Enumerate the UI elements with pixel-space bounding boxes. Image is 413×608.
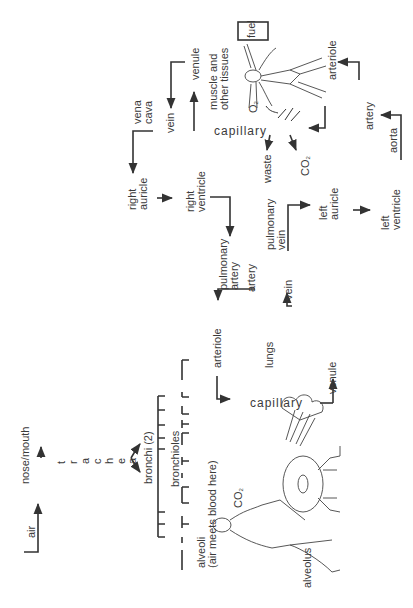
label-artery-lungs: artery [246, 264, 257, 292]
label-co2-lungs: CO2 [233, 488, 247, 508]
label-vein-body: vein [165, 113, 176, 133]
circulation-diagram: air nose/mouth t r a c h e a bronchi (2)… [0, 0, 413, 608]
label-fuel: fuel [246, 20, 257, 38]
label-nose-mouth: nose/mouth [20, 427, 31, 484]
label-pulmonary-artery: pulmonary artery [218, 239, 240, 290]
label-alveolus: alveolus [302, 548, 313, 588]
label-pulmonary-vein: pulmonary vein [265, 199, 287, 250]
label-co2-body: CO2 [300, 156, 314, 176]
label-waste: waste [262, 154, 273, 183]
label-right-ventricle: right ventricle [185, 171, 207, 212]
label-arteriole-body: arteriole [327, 40, 338, 80]
seated-figure-illustration [213, 395, 340, 572]
label-artery-body: artery [364, 102, 375, 130]
label-venule-lungs: venule [327, 362, 338, 394]
label-bronchioles: bronchioles [170, 431, 181, 487]
label-capillary-lungs: capillary [250, 398, 303, 409]
label-vena-cava: vena cava [132, 100, 154, 124]
label-bronchi: bronchi (2) [143, 431, 154, 484]
standing-figure-illustration [244, 44, 326, 108]
label-capillary-body: capillary [214, 126, 267, 137]
label-alveoli: alveoli (air meets blood here) [196, 460, 218, 568]
label-muscle-tissues: muscle and other tissues [208, 48, 230, 110]
label-air: air [26, 526, 37, 538]
label-left-ventricle: left ventricle [380, 189, 402, 230]
label-lungs: lungs [264, 342, 275, 368]
label-venule-body: venule [190, 48, 201, 80]
label-right-auricle: right auricle [127, 178, 149, 210]
label-vein-lungs: vein [283, 280, 294, 300]
label-o2: O2 [248, 101, 262, 113]
label-aorta: aorta [388, 128, 399, 153]
label-left-auricle: left auricle [318, 188, 340, 220]
label-arteriole-lungs: arteriole [212, 328, 223, 368]
